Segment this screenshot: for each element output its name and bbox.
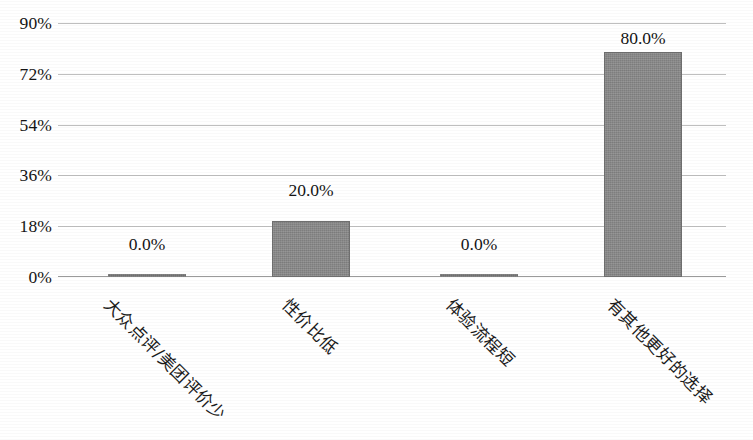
bar-series: 0.0% 20.0% 0.0% 80.0% <box>58 23 726 277</box>
bar-label-4: 80.0% <box>570 30 716 48</box>
bar-slot-4: 80.0% <box>604 23 682 277</box>
bar-1[interactable] <box>108 274 186 277</box>
y-tick-label-90: 90% <box>0 15 52 33</box>
y-tick-label-18: 18% <box>0 218 52 236</box>
x-axis-label-2: 性价比低 <box>279 296 341 358</box>
bar-2[interactable] <box>272 221 350 277</box>
bar-slot-1: 0.0% <box>108 23 186 277</box>
y-tick-label-0: 0% <box>0 269 52 287</box>
y-axis: 90% 72% 54% 36% 18% 0% <box>0 0 56 300</box>
x-axis-label-4: 有其他更好的选择 <box>604 296 715 407</box>
plot-area: 0.0% 20.0% 0.0% 80.0% <box>58 23 726 277</box>
x-axis-label-3: 体验流程短 <box>443 296 517 370</box>
bar-label-2: 20.0% <box>238 182 384 200</box>
bar-label-1: 0.0% <box>74 236 220 254</box>
bar-slot-3: 0.0% <box>440 23 518 277</box>
y-tick-label-54: 54% <box>0 117 52 135</box>
bar-3[interactable] <box>440 274 518 277</box>
bar-label-3: 0.0% <box>406 236 552 254</box>
y-tick-label-36: 36% <box>0 167 52 185</box>
y-tick-label-72: 72% <box>0 66 52 84</box>
bar-chart: 90% 72% 54% 36% 18% 0% 0.0% 20.0% <box>0 0 753 440</box>
bar-4[interactable] <box>604 52 682 277</box>
bar-slot-2: 20.0% <box>272 23 350 277</box>
x-axis-label-1: 大众点评/美团评价少 <box>101 296 229 424</box>
